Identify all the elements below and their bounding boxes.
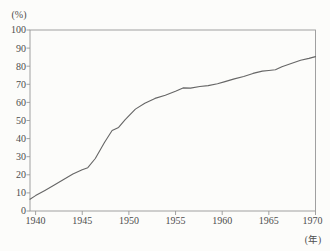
y-axis-unit-label: (%) bbox=[12, 9, 27, 21]
y-axis-tick-label: 60 bbox=[16, 97, 26, 108]
y-axis-tick-label: 40 bbox=[16, 133, 26, 144]
y-axis-tick-label: 30 bbox=[16, 151, 26, 162]
x-axis-unit-label: (年) bbox=[305, 234, 321, 246]
line-chart-svg: 0102030405060708090100194019451950195519… bbox=[0, 0, 330, 251]
y-axis-tick-label: 90 bbox=[16, 43, 26, 54]
x-axis-tick-label: 1970 bbox=[303, 215, 323, 226]
line-chart: 0102030405060708090100194019451950195519… bbox=[0, 0, 330, 251]
y-axis-tick-label: 100 bbox=[11, 24, 26, 35]
x-axis-tick-label: 1940 bbox=[26, 215, 46, 226]
y-axis-tick-label: 70 bbox=[16, 79, 26, 90]
y-axis-tick-label: 20 bbox=[16, 169, 26, 180]
x-axis-tick-label: 1960 bbox=[212, 215, 232, 226]
x-axis-tick-label: 1965 bbox=[259, 215, 279, 226]
data-line bbox=[30, 57, 316, 200]
y-axis-tick-label: 80 bbox=[16, 61, 26, 72]
x-axis-tick-label: 1945 bbox=[72, 215, 92, 226]
plot-border bbox=[30, 30, 316, 211]
y-axis-tick-label: 50 bbox=[16, 115, 26, 126]
x-axis-tick-label: 1950 bbox=[119, 215, 139, 226]
y-axis-tick-label: 10 bbox=[16, 187, 26, 198]
x-axis-tick-label: 1955 bbox=[166, 215, 186, 226]
